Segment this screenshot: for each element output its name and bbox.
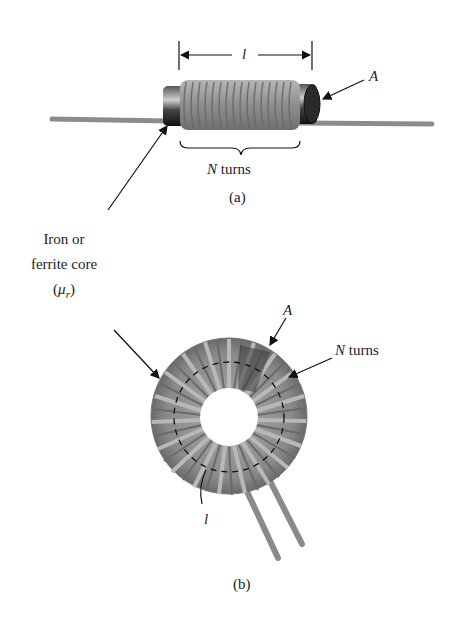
toroid-inductor	[114, 318, 332, 558]
area-arrow-a	[323, 80, 364, 99]
core-label-line2: ferrite core	[14, 255, 114, 273]
core-arrow-b	[114, 330, 159, 378]
turns-text-b: turns	[345, 342, 379, 358]
turns-label-b: N turns	[335, 341, 379, 359]
core-cross-section	[304, 85, 320, 123]
turns-var-b: N	[335, 342, 345, 358]
right-lead	[300, 123, 432, 124]
caption-b: (b)	[233, 575, 251, 593]
area-label-b: A	[283, 301, 292, 319]
area-arrow-b	[270, 318, 286, 345]
toroid-hole	[200, 388, 258, 446]
mu-symbol: μ	[58, 281, 66, 297]
turns-text-a: turns	[217, 161, 251, 177]
toroid-lead-1	[244, 485, 278, 558]
mu-close: )	[70, 281, 75, 297]
length-label-b: l	[204, 510, 208, 528]
length-label-a: l	[242, 45, 246, 63]
turns-brace	[180, 141, 300, 155]
core-label-line1: Iron or	[14, 230, 114, 248]
inductor-diagram	[0, 0, 451, 625]
left-lead	[52, 119, 170, 121]
turns-label-a: N turns	[207, 160, 251, 178]
area-label-a: A	[369, 67, 378, 85]
turns-var-a: N	[207, 161, 217, 177]
turns-arrow-b	[289, 358, 332, 377]
core-arrow-a	[108, 126, 167, 210]
toroid-lead-2	[268, 477, 302, 544]
core-label-mu: (μr)	[14, 280, 114, 303]
caption-a: (a)	[229, 188, 246, 206]
